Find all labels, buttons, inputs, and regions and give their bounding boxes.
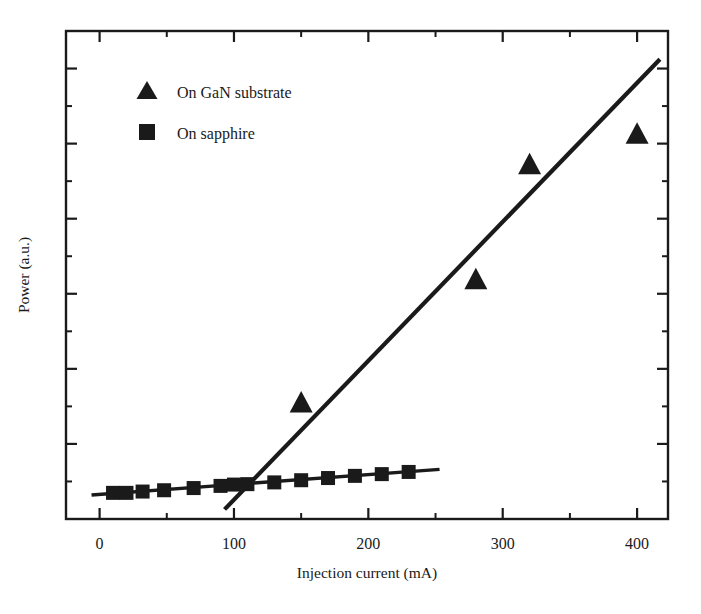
data-point-square — [227, 478, 241, 492]
x-tick-label: 400 — [625, 535, 649, 552]
triangle-marker-icon — [137, 81, 158, 99]
x-tick-label: 200 — [356, 535, 380, 552]
legend-label-sapphire: On sapphire — [177, 125, 255, 143]
data-point-square — [106, 486, 120, 500]
data-point-square — [214, 479, 228, 493]
legend-entry-sapphire: On sapphire — [139, 124, 255, 143]
data-point-square — [348, 469, 362, 483]
y-axis-minor-ticks — [66, 106, 668, 481]
data-point-square — [402, 465, 416, 479]
data-point-square — [119, 486, 133, 500]
data-point-square — [187, 481, 201, 495]
x-tick-label: 0 — [96, 535, 104, 552]
x-axis-major-ticks — [100, 31, 638, 519]
x-axis-title: Injection current (mA) — [297, 564, 437, 582]
data-point-triangle — [464, 268, 487, 290]
chart-legend: On GaN substrate On sapphire — [137, 81, 292, 143]
figure-container: 0100200300400 Injection current (mA) Pow… — [0, 0, 701, 614]
data-point-triangle — [518, 153, 541, 175]
gan-fit-line — [225, 59, 660, 509]
y-axis-title: Power (a.u.) — [15, 237, 33, 313]
x-axis-minor-ticks — [167, 31, 570, 519]
plot-frame — [66, 31, 668, 519]
legend-label-gan: On GaN substrate — [177, 84, 292, 101]
x-axis-tick-labels: 0100200300400 — [96, 535, 650, 552]
data-point-triangle — [290, 391, 313, 413]
fit-line — [225, 59, 660, 509]
data-point-square — [321, 471, 335, 485]
data-point-square — [240, 477, 254, 491]
data-point-square — [267, 475, 281, 489]
data-point-triangle — [626, 122, 649, 144]
x-tick-label: 100 — [222, 535, 246, 552]
data-point-square — [157, 483, 171, 497]
data-point-square — [375, 467, 389, 481]
y-axis-major-ticks — [66, 69, 668, 444]
gan-data-points — [290, 122, 649, 412]
power-vs-injection-current-chart: 0100200300400 Injection current (mA) Pow… — [0, 0, 701, 614]
legend-entry-gan: On GaN substrate — [137, 81, 292, 101]
data-point-square — [294, 473, 308, 487]
x-tick-label: 300 — [491, 535, 515, 552]
square-marker-icon — [139, 124, 155, 140]
data-point-square — [136, 485, 150, 499]
